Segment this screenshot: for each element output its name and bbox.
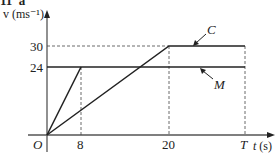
x-axis-var: t [253, 139, 256, 153]
tick-x20: 20 [162, 138, 175, 151]
tick-xT: T [240, 138, 247, 151]
y-axis-arrow-icon [44, 10, 50, 18]
arrow-c-line [196, 34, 206, 43]
tick-x8: 8 [77, 138, 84, 151]
curve-label-m: M [214, 78, 225, 91]
series-m-accel [47, 67, 81, 135]
x-axis-label: t (s) [253, 140, 272, 152]
curve-label-c: C [207, 23, 216, 36]
arrow-m-line [203, 71, 213, 79]
velocity-time-graph [0, 0, 279, 157]
x-axis-unit: (s) [259, 139, 272, 153]
origin-label: O [33, 138, 42, 151]
tick-y24: 24 [30, 61, 43, 74]
y-axis-label: v (ms⁻¹) [3, 8, 44, 20]
x-axis-arrow-icon [267, 132, 275, 138]
tick-y30: 30 [30, 40, 43, 53]
